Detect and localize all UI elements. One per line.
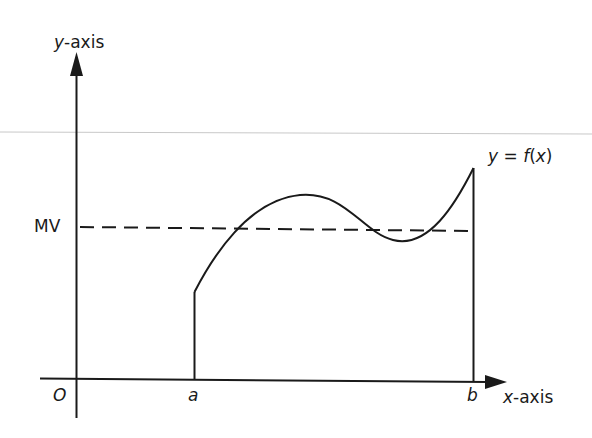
mean-value-dashed-line <box>80 227 473 231</box>
x-axis-line <box>40 379 488 383</box>
y-axis-label: y-axis <box>54 34 104 51</box>
function-open-paren: ( <box>529 146 536 166</box>
separator-line <box>0 132 592 134</box>
function-y: y <box>488 146 498 166</box>
bound-a-label: a <box>188 387 198 404</box>
function-label: y = f(x) <box>488 148 552 165</box>
mv-label: MV <box>34 218 60 235</box>
function-eq: = <box>498 146 523 166</box>
bound-b-label: b <box>467 387 478 404</box>
x-axis-label: x-axis <box>503 389 553 406</box>
mean-value-diagram: y-axis y = f(x) MV O a b x-axis <box>0 0 592 438</box>
diagram-graphics <box>0 0 592 438</box>
x-axis-suffix: -axis <box>513 387 553 407</box>
y-axis-arrow-icon <box>70 52 83 76</box>
origin-label: O <box>53 387 66 404</box>
y-axis-suffix: -axis <box>64 32 104 52</box>
x-axis-var: x <box>503 387 513 407</box>
function-close-paren: ) <box>546 146 553 166</box>
function-x: x <box>536 146 546 166</box>
y-axis-var: y <box>54 32 64 52</box>
